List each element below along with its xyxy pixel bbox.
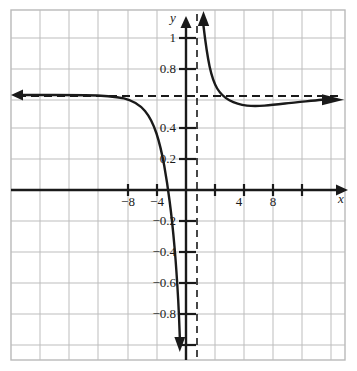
ytick-label-0.4: 0.4 <box>141 120 176 136</box>
plot-canvas <box>0 0 357 371</box>
ytick-label-neg0.4: −0.4 <box>133 244 176 260</box>
xtick-label-8: 8 <box>261 194 285 210</box>
xtick-label-4: 4 <box>227 194 251 210</box>
xtick-label-neg4: −4 <box>139 194 175 210</box>
y-axis-label: y <box>170 10 176 26</box>
x-axis-label: x <box>338 191 344 207</box>
ytick-label-neg0.6: −0.6 <box>133 275 176 291</box>
ytick-label-1: 1 <box>150 30 176 46</box>
ytick-label-0.8: 0.8 <box>141 61 176 77</box>
ytick-label-0.2: 0.2 <box>141 151 176 167</box>
ytick-label-neg0.2: −0.2 <box>133 213 176 229</box>
ytick-label-neg0.8: −0.8 <box>133 306 176 322</box>
graph-figure: 1 0.8 0.4 0.2 −0.2 −0.4 −0.6 −0.8 −8 −4 … <box>0 0 357 371</box>
